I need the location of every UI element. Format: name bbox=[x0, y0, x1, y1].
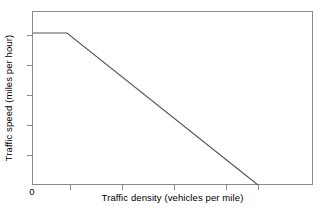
y-axis-label: Traffic speed (miles per hour) bbox=[3, 35, 14, 162]
speed-density-curve bbox=[33, 33, 258, 185]
plot-canvas bbox=[0, 0, 324, 215]
y-axis-ticks bbox=[27, 36, 32, 156]
origin-tick-label: 0 bbox=[25, 186, 39, 197]
y-axis-label-container: Traffic speed (miles per hour) bbox=[0, 11, 16, 185]
traffic-speed-density-chart: Traffic speed (miles per hour) Traffic d… bbox=[0, 0, 324, 215]
x-axis-label: Traffic density (vehicles per mile) bbox=[32, 192, 313, 203]
x-axis-ticks bbox=[71, 185, 259, 190]
